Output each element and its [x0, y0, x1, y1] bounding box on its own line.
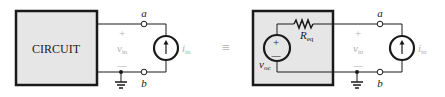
vin-label: vin: [117, 42, 128, 56]
current-source-icon: [390, 36, 414, 60]
terminal-a-label: a: [141, 7, 147, 19]
terminal-b-label: b: [377, 77, 383, 89]
vin-minus: —: [353, 60, 364, 70]
terminal-b: [141, 69, 147, 75]
source-minus: —: [271, 50, 282, 60]
vin-minus: —: [117, 60, 128, 70]
terminal-a: [141, 21, 147, 27]
iin-label: iin: [418, 42, 427, 56]
ground-icon: [115, 70, 127, 88]
terminal-b: [377, 69, 383, 75]
equivalence-symbol: ≡: [222, 40, 230, 55]
iin-label: iin: [182, 42, 191, 56]
thevenin-equivalence-diagram: CIRCUIT a b + vin — iin ≡: [0, 0, 445, 97]
vin-label: vin: [353, 42, 364, 56]
vin-plus: +: [119, 27, 125, 39]
vin-plus: +: [355, 27, 361, 39]
terminal-b-label: b: [141, 77, 147, 89]
current-source-icon: [154, 36, 178, 60]
ground-icon: [351, 70, 363, 88]
circuit-box-label: CIRCUIT: [32, 42, 81, 56]
right-circuit: + — voc Req a b + vin — iin: [253, 7, 427, 89]
left-circuit: CIRCUIT a b + vin — iin: [16, 7, 191, 89]
terminal-a-label: a: [377, 7, 383, 19]
source-plus: +: [273, 36, 279, 48]
terminal-a: [377, 21, 383, 27]
